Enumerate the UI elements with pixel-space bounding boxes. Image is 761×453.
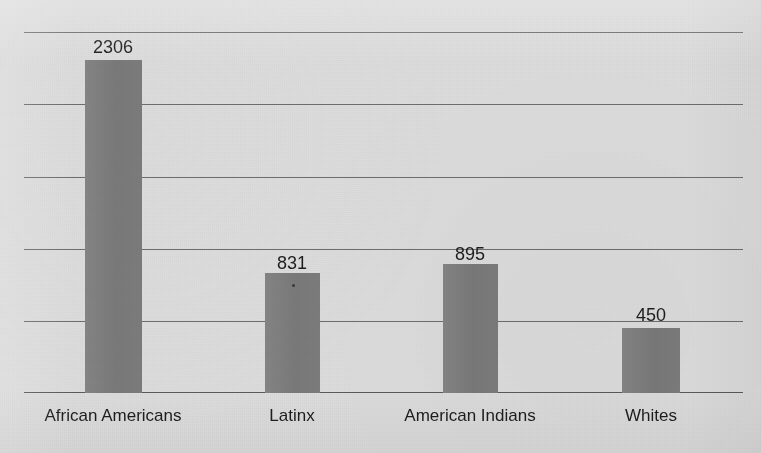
bar-african-americans [85,60,142,393]
bar-american-indians [443,264,498,393]
bar-latinx [265,273,320,393]
plot-area [24,32,743,393]
category-label-african-americans: African Americans [45,406,182,426]
category-label-whites: Whites [625,406,677,426]
gridline-2500 [24,32,743,33]
value-label-american-indians: 895 [455,245,485,263]
value-label-latinx: 831 [277,254,307,272]
category-label-latinx: Latinx [269,406,314,426]
value-label-african-americans: 2306 [93,38,133,56]
value-label-whites: 450 [636,306,666,324]
bar-whites [622,328,680,393]
scan-speck-artifact [292,284,295,287]
category-label-american-indians: American Indians [404,406,535,426]
bar-chart: 2306 831 895 450 African Americans Latin… [0,0,761,453]
